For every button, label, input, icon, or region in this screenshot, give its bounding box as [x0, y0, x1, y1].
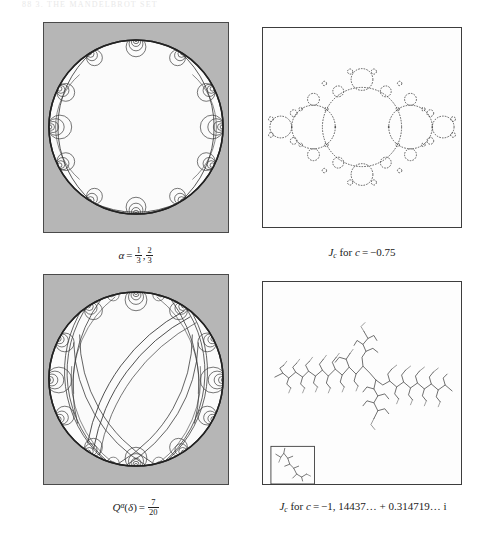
lamination-panel-bottom-left	[43, 274, 229, 485]
julia-drawing-top	[263, 28, 461, 227]
inset-box-group	[271, 446, 315, 484]
caption-comma: ,	[143, 249, 146, 261]
caption-equals: =	[311, 500, 321, 512]
lamination-panel-top-left	[43, 22, 229, 233]
running-head: 88 3. THE MANDELBROT SET	[22, 0, 158, 9]
julia-panel-top-right	[262, 27, 462, 228]
figure-page: 88 3. THE MANDELBROT SET	[0, 0, 484, 538]
lamination-drawing-top	[44, 23, 228, 232]
caption-for-word: for	[339, 246, 352, 258]
caption-for-word: for	[290, 500, 303, 512]
fraction-one-third: 13	[135, 246, 141, 265]
julia-subscript-c: c	[333, 251, 336, 260]
fraction-seven-twentieths: 720	[148, 498, 159, 517]
caption-equals: =	[124, 249, 134, 261]
julia-drawing-bottom	[263, 282, 461, 484]
caption-lamination-top: α=13,23	[43, 246, 229, 265]
lamination-drawing-bottom	[44, 275, 228, 484]
parameter-value: −0.75	[370, 246, 395, 258]
caption-julia-top: Jc for c=−0.75	[262, 246, 462, 260]
julia-subscript-c: c	[284, 505, 287, 514]
parameter-value: −1, 14437… + 0.314719… i	[321, 500, 446, 512]
caption-equals: =	[137, 501, 147, 513]
caption-lamination-bottom: Qα(δ)=720	[43, 498, 229, 517]
caption-julia-bottom: Jc for c=−1, 14437… + 0.314719… i	[252, 500, 474, 514]
caption-equals: =	[360, 246, 370, 258]
julia-panel-bottom-right	[262, 281, 462, 485]
fraction-two-thirds: 23	[146, 246, 152, 265]
